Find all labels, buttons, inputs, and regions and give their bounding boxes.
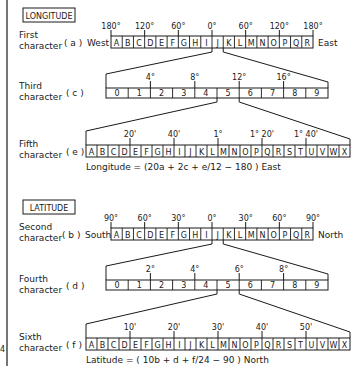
row-b-var: ( b ) bbox=[62, 230, 80, 240]
cell-M: M bbox=[248, 231, 255, 240]
cell-M: M bbox=[220, 148, 227, 157]
cell-H: H bbox=[192, 231, 198, 240]
cell-9: 9 bbox=[314, 89, 319, 98]
tick-label: 60° bbox=[171, 22, 185, 31]
tick-label: 0° bbox=[207, 22, 216, 31]
cell-P: P bbox=[283, 231, 288, 240]
cell-E: E bbox=[133, 148, 138, 157]
cell-G: G bbox=[154, 341, 160, 350]
cell-A: A bbox=[114, 39, 120, 48]
tick-label: 16° bbox=[277, 73, 291, 82]
row-a-grid: ABCDEFGHIJKLMNOPQR180°120°60°0°60°120°18… bbox=[101, 22, 322, 49]
tick-label: 8° bbox=[279, 265, 288, 274]
cell-S: S bbox=[287, 148, 292, 157]
tick-label: 1° 20' bbox=[250, 130, 274, 139]
cell-E: E bbox=[159, 231, 164, 240]
tick-label: 180° bbox=[303, 22, 322, 31]
cell-A: A bbox=[114, 231, 120, 240]
tick-label: 2° bbox=[146, 265, 155, 274]
cell-Q: Q bbox=[264, 341, 270, 350]
tick-label: 60° bbox=[138, 214, 152, 223]
cell-K: K bbox=[199, 148, 205, 157]
tick-label: 180° bbox=[101, 22, 120, 31]
tick-label: 30' bbox=[212, 323, 224, 332]
cell-R: R bbox=[305, 231, 311, 240]
cell-C: C bbox=[111, 148, 117, 157]
tick-label: 90° bbox=[104, 214, 118, 223]
cell-B: B bbox=[100, 148, 106, 157]
tick-label: 4° bbox=[146, 73, 155, 82]
cell-P: P bbox=[254, 148, 259, 157]
row-f-label-line2: character bbox=[19, 343, 62, 353]
row-f-grid: ABCDEFGHIJKLMNOPQRSTUVWX10'20'30'40'50' bbox=[86, 290, 350, 350]
cell-T: T bbox=[297, 341, 303, 350]
cell-8: 8 bbox=[292, 281, 297, 290]
cell-W: W bbox=[330, 148, 338, 157]
cell-B: B bbox=[100, 341, 106, 350]
cell-G: G bbox=[154, 148, 160, 157]
tick-label: 20' bbox=[124, 130, 136, 139]
longitude-formula: Longitude = (20a + 2c + e/12 − 180 ) Eas… bbox=[86, 162, 281, 172]
tick-label: 30° bbox=[239, 214, 253, 223]
cell-I: I bbox=[178, 341, 180, 350]
cell-9: 9 bbox=[314, 281, 319, 290]
cell-H: H bbox=[165, 148, 171, 157]
tick-label: 12° bbox=[232, 73, 246, 82]
expansion-left-edge bbox=[86, 98, 217, 145]
cell-6: 6 bbox=[248, 89, 253, 98]
latitude-section: LATITUDE Second character ( b ) South No… bbox=[19, 200, 350, 365]
tick-label: 1° 40' bbox=[294, 130, 318, 139]
cell-O: O bbox=[271, 231, 277, 240]
cell-R: R bbox=[276, 148, 282, 157]
cell-N: N bbox=[260, 231, 266, 240]
cell-F: F bbox=[170, 39, 175, 48]
tick-label: 30° bbox=[171, 214, 185, 223]
tick-label: 60° bbox=[272, 214, 286, 223]
cell-Q: Q bbox=[293, 39, 299, 48]
cell-H: H bbox=[165, 341, 171, 350]
row-e-grid: ABCDEFGHIJKLMNOPQRSTUVWX20'40'1°1° 20'1°… bbox=[86, 98, 350, 157]
cell-L: L bbox=[238, 39, 243, 48]
row-d-var: ( d ) bbox=[66, 281, 84, 291]
tick-label: 120° bbox=[270, 22, 289, 31]
cell-J: J bbox=[188, 148, 191, 157]
cell-C: C bbox=[136, 231, 142, 240]
cell-3: 3 bbox=[181, 281, 186, 290]
cell-M: M bbox=[220, 341, 227, 350]
row-b-left-direction: South bbox=[85, 230, 111, 240]
cell-I: I bbox=[205, 39, 207, 48]
cell-E: E bbox=[159, 39, 164, 48]
tick-label: 1° bbox=[213, 130, 222, 139]
cell-4: 4 bbox=[203, 281, 208, 290]
cell-Q: Q bbox=[293, 231, 299, 240]
cell-7: 7 bbox=[270, 89, 275, 98]
cell-C: C bbox=[136, 39, 142, 48]
expansion-left-edge bbox=[106, 48, 212, 88]
cell-F: F bbox=[144, 341, 149, 350]
cell-X: X bbox=[342, 148, 348, 157]
cell-I: I bbox=[178, 148, 180, 157]
cell-N: N bbox=[232, 341, 238, 350]
row-f-label-line1: Sixth bbox=[19, 332, 42, 342]
row-a-var: ( a ) bbox=[64, 38, 82, 48]
cell-K: K bbox=[226, 39, 232, 48]
cell-B: B bbox=[125, 39, 131, 48]
row-a-left-direction: West bbox=[87, 38, 110, 48]
cell-H: H bbox=[192, 39, 198, 48]
cell-J: J bbox=[215, 231, 218, 240]
tick-label: 20' bbox=[168, 323, 180, 332]
cell-D: D bbox=[147, 231, 153, 240]
cell-U: U bbox=[309, 148, 315, 157]
tick-label: 10' bbox=[124, 323, 136, 332]
latitude-formula: Latitude = ( 10b + d + f/24 − 90 ) North bbox=[86, 355, 269, 365]
latitude-title: LATITUDE bbox=[30, 204, 69, 213]
cell-D: D bbox=[121, 148, 127, 157]
tick-label: 4° bbox=[190, 265, 199, 274]
cell-T: T bbox=[297, 148, 303, 157]
row-a-label-line2: character bbox=[19, 41, 62, 51]
row-d-label-line2: character bbox=[19, 285, 62, 295]
expansion-left-edge bbox=[106, 240, 212, 280]
cell-2: 2 bbox=[159, 281, 164, 290]
cell-6: 6 bbox=[248, 281, 253, 290]
row-b-grid: ABCDEFGHIJKLMNOPQR90°60°30°0°30°60°90° bbox=[104, 214, 320, 241]
